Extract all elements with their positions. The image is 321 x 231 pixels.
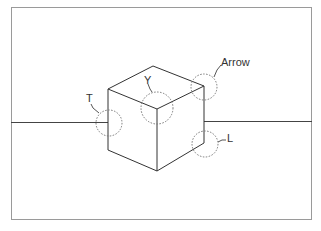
t-leader-line [91,104,99,113]
junction-diagram: T Y Arrow L [0,0,321,231]
l-leader-line [218,140,226,142]
y-label: Y [144,74,152,86]
t-label: T [86,92,93,104]
cube-edge-left-top [108,89,157,109]
cube-outline [108,66,204,171]
frame [12,8,312,220]
arrow-leader-line [214,65,221,77]
l-label: L [227,132,233,144]
arrow-label: Arrow [221,56,250,68]
l-junction-circle [192,131,218,157]
cube [108,66,204,171]
